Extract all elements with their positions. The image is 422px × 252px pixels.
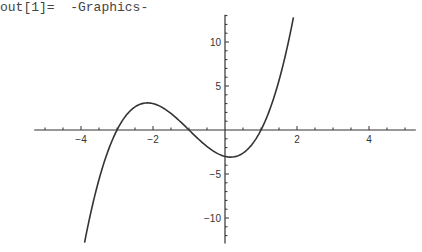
y-tick-label: 5 [215, 81, 221, 92]
y-tick-label: −10 [204, 213, 221, 224]
x-tick-label: 4 [366, 134, 372, 145]
x-tick-label: −4 [75, 134, 87, 145]
y-tick-label: 10 [210, 37, 222, 48]
x-tick-label: 2 [294, 134, 300, 145]
function-plot: −4−224−10−5510 [0, 0, 422, 252]
y-tick-label: −5 [210, 169, 222, 180]
x-tick-label: −2 [147, 134, 159, 145]
